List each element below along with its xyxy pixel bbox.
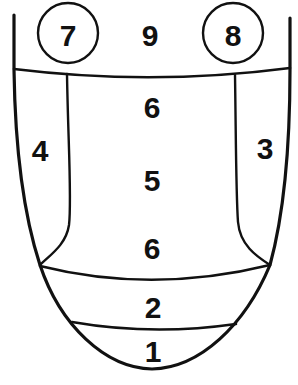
mid-front-separator-line xyxy=(40,265,270,280)
zone-7-label: 7 xyxy=(60,19,77,52)
back-separator-line xyxy=(14,68,290,77)
zone-8-label: 8 xyxy=(225,19,242,52)
right-edge-separator-line xyxy=(235,75,270,265)
zone-4-label: 4 xyxy=(32,134,49,167)
zone-6-bottom-label: 6 xyxy=(144,232,161,265)
zone-1-label: 1 xyxy=(145,335,162,368)
zone-5-label: 5 xyxy=(144,164,161,197)
tongue-diagram: 7 9 8 6 4 3 5 6 2 1 xyxy=(0,0,298,385)
zone-9-label: 9 xyxy=(142,19,159,52)
zone-2-label: 2 xyxy=(145,291,162,324)
zone-6-top-label: 6 xyxy=(144,91,161,124)
left-edge-separator-line xyxy=(40,74,70,265)
zone-3-label: 3 xyxy=(257,132,274,165)
